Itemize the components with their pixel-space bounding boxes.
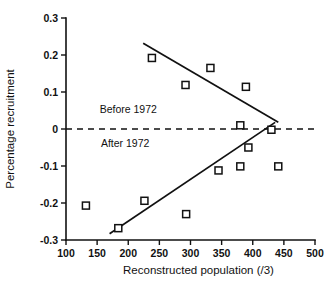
data-point-marker (268, 126, 275, 133)
after-1972-label: After 1972 (101, 137, 150, 149)
data-point-marker (207, 64, 214, 71)
data-point-marker (141, 197, 148, 204)
chart-figure: 0.30.20.10-0.1-0.2-0.3100150200250300350… (0, 0, 333, 291)
data-point-marker (242, 83, 249, 90)
x-tick-label: 100 (57, 247, 75, 259)
data-point-marker (215, 167, 222, 174)
trend-line-before-1972 (143, 43, 278, 122)
y-tick-label: 0.3 (43, 12, 58, 24)
y-tick-label: 0.2 (43, 49, 58, 61)
scatter-plot: 0.30.20.10-0.1-0.2-0.3100150200250300350… (0, 0, 333, 291)
y-tick-label: -0.1 (40, 160, 58, 172)
y-tick-label: 0 (52, 123, 58, 135)
x-tick-label: 150 (88, 247, 106, 259)
y-axis-title: Percentage recruitment (4, 68, 16, 188)
data-point-marker (82, 202, 89, 209)
data-point-marker (148, 54, 155, 61)
before-1972-label: Before 1972 (100, 103, 157, 115)
x-tick-label: 300 (182, 247, 200, 259)
x-tick-label: 400 (244, 247, 262, 259)
x-tick-label: 500 (306, 247, 324, 259)
x-axis-title: Reconstructed population (/3) (123, 264, 274, 276)
x-tick-label: 350 (213, 247, 231, 259)
data-point-marker (237, 122, 244, 129)
y-tick-label: -0.3 (40, 234, 58, 246)
data-point-marker (183, 211, 190, 218)
data-point-marker (115, 225, 122, 232)
data-point-marker (275, 163, 282, 170)
y-tick-label: 0.1 (43, 86, 58, 98)
x-tick-label: 200 (119, 247, 137, 259)
y-tick-label: -0.2 (40, 197, 58, 209)
data-point-marker (237, 163, 244, 170)
data-point-marker (182, 81, 189, 88)
x-tick-label: 250 (151, 247, 169, 259)
data-point-marker (245, 144, 252, 151)
x-tick-label: 450 (275, 247, 293, 259)
